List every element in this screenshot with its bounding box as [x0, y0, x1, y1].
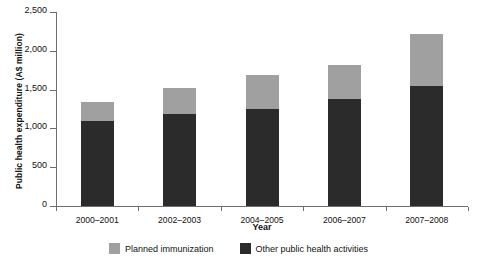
- y-axis-tick: 2,500: [50, 12, 56, 13]
- legend-swatch-icon: [240, 243, 251, 254]
- y-axis-tick-label: 1,500: [24, 83, 47, 93]
- bar-segment-planned-immunization: [410, 34, 443, 86]
- bar-segment-other-public-health-activities: [410, 86, 443, 206]
- x-axis-tick: [221, 207, 222, 211]
- bar-segment-other-public-health-activities: [81, 121, 114, 206]
- bar-segment-planned-immunization: [328, 65, 361, 99]
- y-axis-tick-label: 2,500: [24, 5, 47, 15]
- bar-stack: [163, 88, 196, 206]
- x-axis-tick: [138, 207, 139, 211]
- legend-item[interactable]: Planned immunization: [109, 243, 214, 254]
- bar-segment-planned-immunization: [81, 102, 114, 120]
- x-axis-tick: [303, 207, 304, 211]
- bar-segment-planned-immunization: [246, 75, 279, 108]
- bar-stack: [246, 75, 279, 206]
- y-axis-tick-label: 1,000: [24, 121, 47, 131]
- x-axis-line: [56, 206, 468, 207]
- y-axis-tick: 1,000: [50, 128, 56, 129]
- legend-label: Planned immunization: [125, 244, 214, 254]
- y-axis-tick: 2,000: [50, 51, 56, 52]
- bar-segment-planned-immunization: [163, 88, 196, 114]
- y-axis-tick-label: 500: [32, 160, 47, 170]
- chart-figure: Public health expenditure (A$ million) 0…: [0, 0, 477, 271]
- chart-legend: Planned immunizationOther public health …: [0, 243, 477, 254]
- y-axis-tick: 500: [50, 167, 56, 168]
- bar-stack: [410, 34, 443, 206]
- legend-label: Other public health activities: [256, 244, 369, 254]
- x-axis-title: Year: [56, 222, 468, 232]
- legend-item[interactable]: Other public health activities: [240, 243, 369, 254]
- bar-segment-other-public-health-activities: [328, 99, 361, 206]
- y-axis-title: Public health expenditure (A$ million): [14, 11, 24, 211]
- y-axis-tick-label: 0: [42, 199, 47, 209]
- legend-swatch-icon: [109, 243, 120, 254]
- y-axis-line: [56, 12, 57, 207]
- x-axis-tick: [468, 207, 469, 211]
- bar-segment-other-public-health-activities: [163, 114, 196, 206]
- plot-area: 05001,0001,5002,0002,500 2000–20012002–2…: [56, 12, 468, 207]
- bar-stack: [81, 102, 114, 206]
- x-axis-tick: [56, 207, 57, 211]
- y-axis-tick-label: 2,000: [24, 44, 47, 54]
- x-axis-tick: [386, 207, 387, 211]
- y-axis-tick: 1,500: [50, 90, 56, 91]
- bar-segment-other-public-health-activities: [246, 109, 279, 206]
- bar-stack: [328, 65, 361, 206]
